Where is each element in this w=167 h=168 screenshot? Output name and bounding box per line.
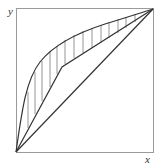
y-axis-label: y bbox=[7, 5, 13, 17]
x-axis-label: x bbox=[144, 153, 150, 165]
diagonal-line bbox=[16, 9, 153, 152]
diagram: y x bbox=[0, 0, 167, 168]
